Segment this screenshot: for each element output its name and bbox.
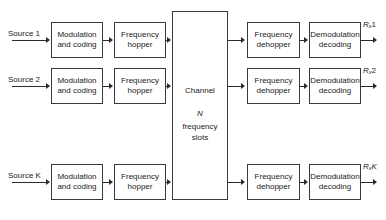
arrowhead-demodk-to-outputk <box>373 179 377 185</box>
modulation-coding-line2-1: and coding <box>57 40 96 50</box>
demodulation-decoding-line1-2: Demodulation <box>310 76 359 86</box>
output-index-k: K <box>372 162 377 171</box>
modulation-coding-box-1: Modulation and coding <box>51 22 103 58</box>
arrow-line-channel-to-dehopper1 <box>228 40 242 41</box>
frequency-dehopper-line1-1: Frequency <box>255 30 293 40</box>
frequency-dehopper-line2-1: dehopper <box>257 40 291 50</box>
arrowhead-dehopper2-to-demod2 <box>304 83 308 89</box>
arrowhead-channel-to-dehopper2 <box>241 83 245 89</box>
demodulation-decoding-line1-k: Demodulation <box>310 172 359 182</box>
arrowhead-sourcek-to-mod <box>46 179 50 185</box>
frequency-dehopper-line1-2: Frequency <box>255 76 293 86</box>
modulation-coding-box-2: Modulation and coding <box>51 68 103 104</box>
channel-title: Channel <box>173 86 227 96</box>
arrowhead-dehopper1-to-demod1 <box>304 37 308 43</box>
arrowhead-channel-to-dehopper1 <box>241 37 245 43</box>
channel-frequency-text: frequency <box>173 122 227 132</box>
demodulation-decoding-line1-1: Demodulation <box>310 30 359 40</box>
arrowhead-mod1-to-hopper1 <box>109 37 113 43</box>
frequency-dehopper-box-k: Frequency dehopper <box>247 164 300 200</box>
source-label-1: Source 1 <box>8 29 40 38</box>
arrowhead-hopper1-to-channel <box>167 37 171 43</box>
frequency-hopper-line2-1: hopper <box>128 40 153 50</box>
arrowhead-source2-to-mod <box>46 83 50 89</box>
output-index-1: 1 <box>372 20 376 29</box>
demodulation-decoding-box-2: Demodulation decoding <box>309 68 361 104</box>
arrowhead-dehopperk-to-demodk <box>304 179 308 185</box>
frequency-hopper-box-k: Frequency hopper <box>114 164 166 200</box>
output-index-2: 2 <box>372 66 376 75</box>
arrow-line-channel-to-dehopperk <box>228 182 242 183</box>
frequency-hopper-line1-2: Frequency <box>121 76 159 86</box>
arrow-line-sourcek-to-mod <box>12 182 48 183</box>
output-label-k: RxK <box>363 162 377 173</box>
frequency-dehopper-line1-k: Frequency <box>255 172 293 182</box>
demodulation-decoding-line2-1: decoding <box>319 40 351 50</box>
output-label-2: Rx2 <box>363 66 376 77</box>
arrowhead-hopper2-to-channel <box>167 83 171 89</box>
modulation-coding-line1-k: Modulation <box>57 172 96 182</box>
frequency-dehopper-box-1: Frequency dehopper <box>247 22 300 58</box>
output-label-1: Rx1 <box>363 20 376 31</box>
modulation-coding-line2-k: and coding <box>57 182 96 192</box>
demodulation-decoding-box-1: Demodulation decoding <box>309 22 361 58</box>
source-label-k-text: Source K <box>8 171 41 180</box>
arrowhead-mod2-to-hopper2 <box>109 83 113 89</box>
frequency-dehopper-line2-2: dehopper <box>257 86 291 96</box>
demodulation-decoding-box-k: Demodulation decoding <box>309 164 361 200</box>
frequency-dehopper-line2-k: dehopper <box>257 182 291 192</box>
arrowhead-hopperk-to-channel <box>167 179 171 185</box>
frequency-hopper-line1-1: Frequency <box>121 30 159 40</box>
arrowhead-channel-to-dehopperk <box>241 179 245 185</box>
channel-slots-text: slots <box>173 133 227 143</box>
frequency-hopper-line2-2: hopper <box>128 86 153 96</box>
frequency-hopper-box-1: Frequency hopper <box>114 22 166 58</box>
frequency-hopper-box-2: Frequency hopper <box>114 68 166 104</box>
arrowhead-modk-to-hopperk <box>109 179 113 185</box>
block-diagram: Source 1 Modulation and coding Frequency… <box>0 0 386 220</box>
arrow-line-channel-to-dehopper2 <box>228 86 242 87</box>
arrow-line-source1-to-mod <box>12 40 48 41</box>
demodulation-decoding-line2-2: decoding <box>319 86 351 96</box>
source-label-k: Source K <box>8 171 41 180</box>
channel-n-symbol: N <box>173 109 227 119</box>
modulation-coding-line1-2: Modulation <box>57 76 96 86</box>
frequency-dehopper-box-2: Frequency dehopper <box>247 68 300 104</box>
source-label-2: Source 2 <box>8 75 40 84</box>
frequency-hopper-line2-k: hopper <box>128 182 153 192</box>
modulation-coding-line2-2: and coding <box>57 86 96 96</box>
frequency-hopper-line1-k: Frequency <box>121 172 159 182</box>
modulation-coding-box-k: Modulation and coding <box>51 164 103 200</box>
channel-box: Channel N frequency slots <box>172 11 228 200</box>
arrow-line-source2-to-mod <box>12 86 48 87</box>
demodulation-decoding-line2-k: decoding <box>319 182 351 192</box>
arrowhead-source1-to-mod <box>46 37 50 43</box>
arrowhead-demod2-to-output2 <box>373 83 377 89</box>
arrowhead-demod1-to-output1 <box>373 37 377 43</box>
modulation-coding-line1-1: Modulation <box>57 30 96 40</box>
